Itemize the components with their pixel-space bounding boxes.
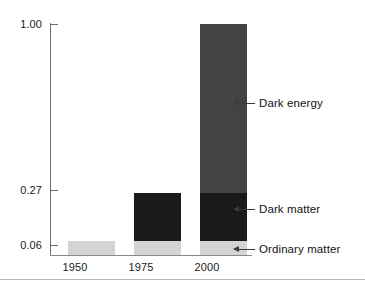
- y-tick-label-0.06: 0.06: [8, 239, 42, 251]
- bar-1950: [68, 241, 115, 255]
- x-tick-label-2000: 2000: [177, 261, 237, 273]
- ordinary-matter-segment-1975: [134, 241, 181, 255]
- x-tick-label-1950: 1950: [45, 261, 105, 273]
- annotation-label-dark-matter: Dark matter: [259, 203, 320, 215]
- plot-area: [50, 24, 255, 255]
- x-axis-line: [50, 255, 252, 256]
- annotation-dark-energy: Dark energy: [233, 96, 323, 110]
- bar-2000: [200, 24, 247, 255]
- ordinary-matter-segment-1950: [68, 241, 115, 255]
- dark-matter-segment-1975: [134, 193, 181, 241]
- annotation-ordinary-matter: Ordinary matter: [233, 242, 340, 256]
- dark-matter-segment-2000: [200, 193, 247, 241]
- figure-bottom-divider: [0, 279, 365, 280]
- annotation-dark-matter: Dark matter: [233, 202, 320, 216]
- bar-1975: [134, 193, 181, 255]
- left-arrow-icon: [233, 99, 255, 108]
- chart-figure: 1.00 0.27 0.06 1950 1975 2000 Dark energ…: [0, 0, 365, 288]
- y-tick-label-0.27: 0.27: [8, 184, 42, 196]
- y-tick-label-1.00: 1.00: [8, 18, 42, 30]
- left-arrow-icon: [233, 245, 255, 254]
- annotation-label-ordinary-matter: Ordinary matter: [259, 243, 340, 255]
- left-arrow-icon: [233, 205, 255, 214]
- x-tick-label-1975: 1975: [111, 261, 171, 273]
- annotation-label-dark-energy: Dark energy: [259, 97, 323, 109]
